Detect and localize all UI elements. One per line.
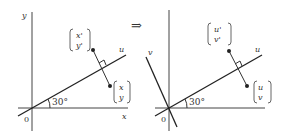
bracket-right bbox=[87, 29, 90, 51]
left-x-axis-label: x bbox=[122, 112, 127, 121]
matrix-bottom: y bbox=[118, 93, 124, 102]
right-panel: 30° v u 0 u' v' u v bbox=[146, 10, 271, 131]
right-v-axis-label: v bbox=[148, 48, 153, 57]
bracket-left bbox=[114, 81, 117, 103]
right-angle-label: 30° bbox=[189, 97, 205, 107]
implies-arrow-icon: ⇒ bbox=[131, 18, 142, 33]
bracket-left bbox=[254, 81, 257, 103]
right-u-axis-label: u bbox=[255, 45, 260, 54]
left-u-label: u bbox=[119, 45, 124, 54]
left-reflection-segment bbox=[93, 50, 110, 86]
right-angle-arc bbox=[185, 99, 187, 108]
bracket-left bbox=[208, 23, 211, 45]
bracket-right bbox=[127, 81, 130, 103]
bracket-right bbox=[268, 81, 271, 103]
matrix-bottom: y' bbox=[75, 41, 83, 50]
left-matrix-reflected: x' y' bbox=[70, 29, 90, 51]
matrix-top: u' bbox=[214, 25, 221, 34]
left-point-reflected bbox=[91, 48, 95, 52]
left-panel: 30° y x u 0 x' y' x y bbox=[18, 11, 130, 131]
right-matrix-reflected: u' v' bbox=[208, 23, 231, 45]
left-matrix-original: x y bbox=[114, 81, 130, 103]
left-point-original bbox=[108, 84, 112, 88]
right-point-reflected bbox=[227, 49, 231, 53]
right-reflection-segment bbox=[229, 51, 247, 86]
bracket-right bbox=[228, 23, 231, 45]
matrix-top: x bbox=[119, 83, 124, 92]
bracket-left bbox=[70, 29, 73, 51]
left-origin-label: 0 bbox=[24, 115, 29, 124]
matrix-top: x' bbox=[76, 31, 83, 40]
left-angle-label: 30° bbox=[52, 97, 68, 107]
left-y-axis-label: y bbox=[21, 11, 27, 20]
left-angle-arc bbox=[48, 99, 50, 108]
reflection-diagram: 30° y x u 0 x' y' x y ⇒ bbox=[0, 0, 284, 138]
right-origin-label: 0 bbox=[161, 115, 166, 124]
right-point-original bbox=[245, 84, 249, 88]
matrix-bottom: v bbox=[258, 93, 263, 102]
matrix-top: u bbox=[258, 83, 263, 92]
right-matrix-original: u v bbox=[254, 81, 271, 103]
matrix-bottom: v' bbox=[214, 35, 221, 44]
